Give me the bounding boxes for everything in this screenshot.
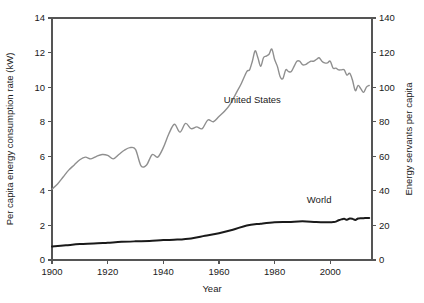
y-tick-label: 8 [40,116,45,127]
data-series-group [52,49,369,247]
axes-group [52,18,372,260]
x-axis-ticks: 190019201940196019802000 [41,260,340,277]
y2-tick-label: 140 [379,12,395,23]
x-tick-label: 2000 [320,266,341,277]
chart-figure: 02468101214 020406080100120140 190019201… [0,0,424,303]
x-tick-label: 1980 [264,266,285,277]
energy-consumption-line-chart: 02468101214 020406080100120140 190019201… [0,0,424,303]
x-tick-label: 1900 [41,266,62,277]
y-tick-label: 4 [40,185,45,196]
y2-tick-label: 100 [379,82,395,93]
y-tick-label: 2 [40,220,45,231]
x-tick-label: 1960 [208,266,229,277]
series-label-world: World [307,194,332,205]
y2-tick-label: 40 [379,185,390,196]
y-tick-label: 10 [34,82,45,93]
series-line-world [52,218,369,247]
y2-tick-label: 60 [379,151,390,162]
y-tick-label: 6 [40,151,45,162]
x-tick-label: 1920 [97,266,118,277]
y-tick-label: 0 [40,254,45,265]
series-label-united-states: United States [224,94,281,105]
y2-tick-label: 120 [379,47,395,58]
y-axis-right-title: Energy servants per capita [403,82,414,196]
y-axis-right-ticks: 020406080100120140 [372,12,395,265]
y-axis-left-title: Per capita energy consumption rate (kW) [4,53,15,226]
y2-tick-label: 20 [379,220,390,231]
x-tick-label: 1940 [153,266,174,277]
x-axis-title: Year [202,283,221,294]
y-axis-left-ticks: 02468101214 [34,12,52,265]
y-tick-label: 12 [34,47,45,58]
series-annotations: United StatesWorld [224,94,332,205]
series-line-united-states [52,49,369,189]
y2-tick-label: 0 [379,254,384,265]
y-tick-label: 14 [34,12,45,23]
y2-tick-label: 80 [379,116,390,127]
